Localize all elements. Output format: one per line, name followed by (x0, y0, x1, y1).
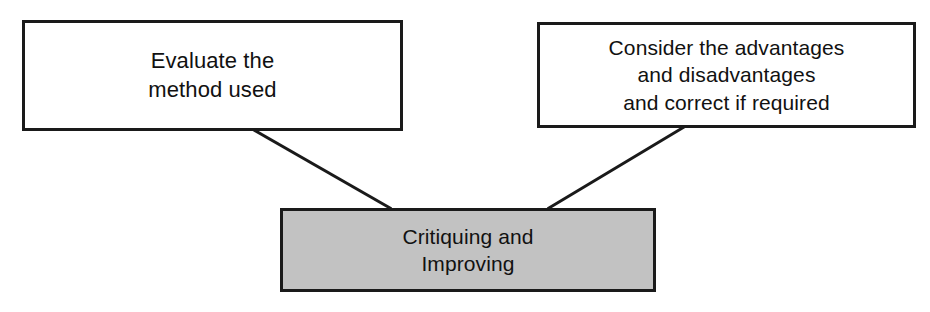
node-critiquing-improving[interactable]: Critiquing and Improving (280, 208, 656, 292)
connector-left (254, 130, 390, 208)
node-critiquing-improving-label: Critiquing and Improving (397, 223, 540, 278)
node-consider-advantages-label: Consider the advantages and disadvantage… (603, 34, 851, 116)
node-evaluate-method-label: Evaluate the method used (142, 47, 282, 104)
connector-right (549, 127, 684, 208)
node-evaluate-method[interactable]: Evaluate the method used (22, 20, 403, 131)
node-consider-advantages[interactable]: Consider the advantages and disadvantage… (537, 22, 916, 128)
diagram-canvas: Evaluate the method used Consider the ad… (0, 0, 930, 312)
